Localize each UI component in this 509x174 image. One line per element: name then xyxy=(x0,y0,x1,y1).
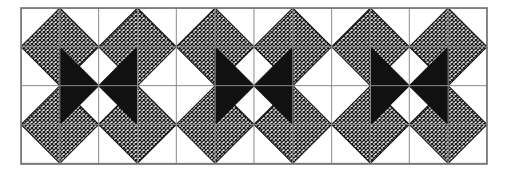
quilt-pattern-diagram xyxy=(0,0,509,174)
figure-canvas xyxy=(0,0,509,174)
